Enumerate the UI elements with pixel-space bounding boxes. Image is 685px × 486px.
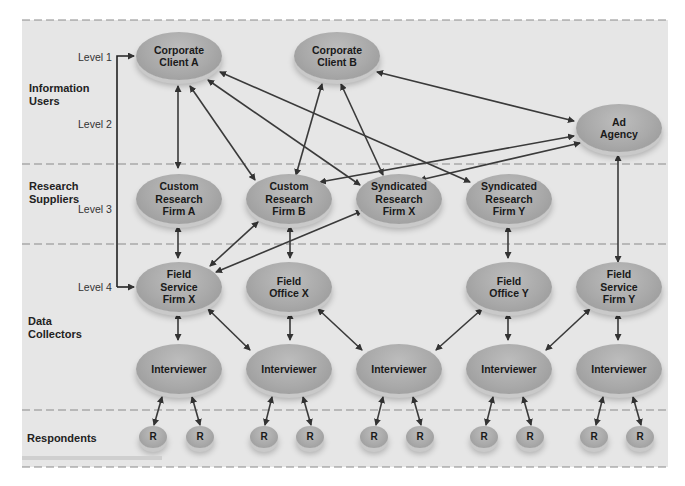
node-respondent: R bbox=[296, 426, 324, 448]
node-field-office-y: FieldOffice Y bbox=[466, 262, 552, 312]
band-label-line: Research bbox=[29, 180, 79, 193]
node-syndicated-research-firm-y: SyndicatedResearchFirm Y bbox=[466, 174, 552, 224]
node-respondent: R bbox=[470, 426, 498, 448]
level-4-label: Level 4 bbox=[78, 281, 112, 293]
band-label-line: Respondents bbox=[27, 432, 97, 445]
node-respondent: R bbox=[516, 426, 544, 448]
node-interviewer-3: Interviewer bbox=[356, 344, 442, 394]
band-label-line: Users bbox=[29, 95, 90, 108]
node-field-office-x: FieldOffice X bbox=[246, 262, 332, 312]
node-interviewer-2: Interviewer bbox=[246, 344, 332, 394]
band-label-line: Suppliers bbox=[29, 193, 79, 206]
node-field-service-firm-y: FieldServiceFirm Y bbox=[576, 262, 662, 312]
band-label-data-collectors: Data Collectors bbox=[28, 315, 82, 341]
caption-bar bbox=[22, 456, 162, 460]
node-respondent: R bbox=[186, 426, 214, 448]
level-3-label: Level 3 bbox=[78, 203, 112, 215]
node-corporate-client-a: CorporateClient A bbox=[136, 32, 222, 80]
node-corporate-client-b: CorporateClient B bbox=[294, 32, 380, 80]
band-label-research-suppliers: Research Suppliers bbox=[29, 180, 79, 206]
band-label-respondents: Respondents bbox=[27, 432, 97, 445]
node-respondent: R bbox=[360, 426, 388, 448]
node-syndicated-research-firm-x: SyndicatedResearchFirm X bbox=[356, 174, 442, 224]
node-respondent: R bbox=[626, 426, 654, 448]
band-label-information-users: Information Users bbox=[29, 82, 90, 108]
node-respondent: R bbox=[406, 426, 434, 448]
band-label-line: Data bbox=[28, 315, 82, 328]
node-interviewer-4: Interviewer bbox=[466, 344, 552, 394]
node-ad-agency: AdAgency bbox=[576, 104, 662, 152]
level-2-label: Level 2 bbox=[78, 118, 112, 130]
node-respondent: R bbox=[580, 426, 608, 448]
node-interviewer-5: Interviewer bbox=[576, 344, 662, 394]
node-respondent: R bbox=[139, 426, 167, 448]
node-custom-research-firm-a: CustomResearchFirm A bbox=[136, 174, 222, 224]
node-interviewer-1: Interviewer bbox=[136, 344, 222, 394]
node-respondent: R bbox=[250, 426, 278, 448]
node-field-service-firm-x: FieldServiceFirm X bbox=[136, 262, 222, 312]
level-1-label: Level 1 bbox=[78, 51, 112, 63]
marketing-research-industry-diagram: Information Users Research Suppliers Dat… bbox=[0, 0, 685, 486]
band-label-line: Collectors bbox=[28, 328, 82, 341]
band-label-line: Information bbox=[29, 82, 90, 95]
node-custom-research-firm-b: CustomResearchFirm B bbox=[246, 174, 332, 224]
